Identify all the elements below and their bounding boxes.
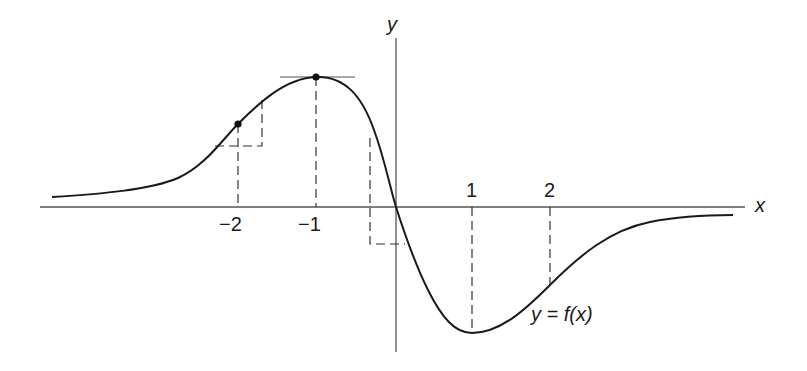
tick-label-2: 2 [544,180,555,200]
curve-label: y = f(x) [531,304,593,324]
tick-label-minus-2: −2 [219,214,242,234]
dashed-guides [215,77,550,333]
point-marker-maximum [312,73,319,80]
curve-f-of-x [52,77,733,333]
graph-canvas [0,0,807,371]
slope-triangle-origin [370,138,405,244]
y-axis-label: y [387,14,397,34]
x-axis-label: x [755,195,765,215]
tick-label-1: 1 [466,180,477,200]
function-graph-figure: y x −2 −1 1 2 y = f(x) [0,0,807,371]
point-marker-x-minus-2 [234,120,241,127]
tick-label-minus-1: −1 [298,214,321,234]
